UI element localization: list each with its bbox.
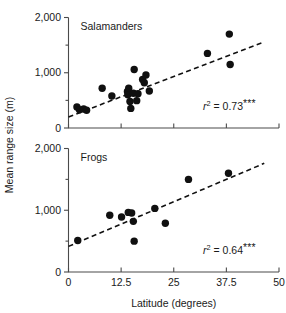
data-point	[118, 213, 125, 220]
r-squared-annotation-bottom: r2 = 0.64***	[203, 241, 256, 256]
data-point	[225, 170, 232, 177]
trendline-bottom	[69, 163, 265, 246]
significance-stars: ***	[243, 97, 256, 109]
data-point	[126, 98, 133, 105]
y-tick-label-1000: 1,000	[35, 66, 61, 78]
y-tick-label-1000: 1,000	[35, 204, 61, 216]
data-point	[204, 50, 211, 57]
data-point	[162, 220, 169, 227]
data-point	[128, 209, 135, 216]
scatter-figure: 01,0002,000Salamandersr2 = 0.73***01,000…	[0, 0, 286, 313]
data-point	[106, 211, 113, 218]
x-tick-label-37.5: 37.5	[216, 276, 237, 288]
data-point	[226, 61, 233, 68]
panel-title-bottom: Frogs	[81, 151, 108, 163]
x-tick-label-0: 0	[66, 276, 72, 288]
data-point	[141, 79, 148, 86]
data-point	[133, 97, 140, 104]
x-tick-label-12.5: 12.5	[111, 276, 132, 288]
data-point	[74, 237, 81, 244]
data-point	[83, 107, 90, 114]
panel-bottom: 01,0002,000012.52537.550Frogsr2 = 0.64**…	[35, 142, 285, 288]
figure-container: 01,0002,000Salamandersr2 = 0.73***01,000…	[0, 0, 286, 313]
x-tick-label-50: 50	[273, 276, 285, 288]
panel-title-top: Salamanders	[81, 20, 143, 32]
x-tick-label-25: 25	[168, 276, 180, 288]
axis-spines-top	[69, 18, 280, 129]
data-point	[127, 105, 134, 112]
data-point	[146, 87, 153, 94]
y-tick-label-2000: 2,000	[35, 142, 61, 154]
y-axis-title: Mean range size (m)	[3, 97, 15, 193]
data-point	[130, 237, 137, 244]
y-tick-label-0: 0	[55, 266, 61, 278]
data-point	[185, 176, 192, 183]
y-tick-label-0: 0	[55, 122, 61, 134]
axis-spines-bottom	[69, 149, 280, 273]
data-point	[98, 85, 105, 92]
data-point	[130, 218, 137, 225]
data-point	[108, 92, 115, 99]
data-point	[130, 66, 137, 73]
r-squared-annotation-top: r2 = 0.73***	[203, 97, 256, 112]
r-value: = 0.73	[211, 100, 244, 112]
y-tick-label-2000: 2,000	[35, 11, 61, 23]
data-point	[151, 205, 158, 212]
x-axis-title: Latitude (degrees)	[131, 297, 216, 309]
significance-stars: ***	[243, 241, 256, 253]
panel-top: 01,0002,000Salamandersr2 = 0.73***	[35, 11, 279, 134]
r-value: = 0.64	[211, 244, 244, 256]
data-point	[226, 30, 233, 37]
data-point	[134, 90, 141, 97]
data-point	[142, 71, 149, 78]
